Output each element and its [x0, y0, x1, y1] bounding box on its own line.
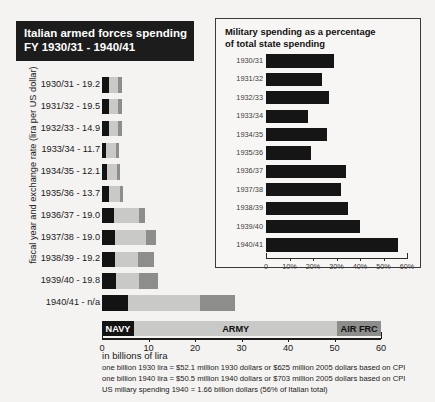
- inset-row-label: 1934/35: [225, 126, 263, 144]
- inset-bar-wrap: [266, 165, 413, 178]
- chart-row: 1939/40 - 19.8: [16, 270, 381, 292]
- inset-bar-wrap: [266, 91, 413, 104]
- inset-row: 1932/33: [225, 89, 415, 107]
- inset-bar-wrap: [266, 238, 413, 251]
- inset-x-tick: [337, 258, 338, 261]
- inset-row-label: 1930/31: [225, 52, 263, 70]
- inset-x-axis: 010%20%30%40%50%60%: [266, 258, 407, 259]
- bar-segment-army: [109, 77, 118, 92]
- x-tick: [381, 332, 382, 339]
- bar-segment-air-frc: [118, 99, 121, 114]
- inset-row: 1939/40: [225, 218, 415, 236]
- inset-x-tick: [266, 253, 267, 259]
- inset-row: 1936/37: [225, 162, 415, 180]
- inset-x-tick: [360, 258, 361, 261]
- chart-row: 1940/41 - n/a: [16, 292, 381, 314]
- x-tick: [335, 338, 336, 342]
- stacked-bar: [102, 273, 381, 288]
- x-tick-label: 50: [329, 343, 339, 353]
- bar-segment-army: [106, 143, 116, 158]
- legend-item-navy: NAVY: [102, 321, 134, 336]
- inset-x-tick-label: 50%: [376, 262, 390, 271]
- x-tick-label: 60: [376, 343, 386, 353]
- x-tick-label: 30: [236, 343, 246, 353]
- inset-bar-wrap: [266, 146, 413, 159]
- row-label: 1935/36 - 13.7: [16, 183, 100, 205]
- bar-segment-navy: [102, 252, 115, 267]
- bar-segment-navy: [102, 186, 109, 201]
- inset-row-label: 1938/39: [225, 199, 263, 217]
- bar-segment-navy: [102, 230, 115, 245]
- inset-bar-wrap: [266, 183, 413, 196]
- inset-bar: [266, 73, 322, 86]
- inset-bar: [266, 165, 346, 178]
- bar-segment-army: [109, 186, 119, 201]
- footnote-2: one billion 1940 lira = $50.5 million 19…: [102, 374, 405, 383]
- row-label: 1933/34 - 11.7: [16, 139, 100, 161]
- bar-segment-air-frc: [200, 295, 235, 310]
- inset-row-label: 1939/40: [225, 218, 263, 236]
- infographic-root: Italian armed forces spending FY 1930/31…: [0, 0, 435, 402]
- bar-segment-air-frc: [146, 230, 156, 245]
- bar-segment-army: [109, 99, 119, 114]
- inset-bar: [266, 110, 308, 123]
- legend-item-army: ARMY: [134, 321, 337, 336]
- bar-segment-army: [115, 252, 138, 267]
- row-label: 1939/40 - 19.8: [16, 270, 100, 292]
- chart-legend: NAVYARMYAIR FRC: [102, 321, 381, 336]
- inset-bar: [266, 202, 348, 215]
- inset-panel: Military spending as a percentage of tot…: [215, 18, 421, 268]
- inset-bar-wrap: [266, 73, 413, 86]
- inset-x-tick-label: 10%: [282, 262, 296, 271]
- inset-row-label: 1931/32: [225, 70, 263, 88]
- inset-x-tick-label: 30%: [329, 262, 343, 271]
- inset-x-tick: [313, 258, 314, 261]
- bar-segment-navy: [102, 121, 109, 136]
- inset-bar: [266, 91, 329, 104]
- inset-x-tick-label: 60%: [400, 262, 414, 271]
- inset-title-line1: Military spending as a percentage: [225, 26, 417, 38]
- inset-x-tick: [384, 258, 385, 261]
- inset-row: 1931/32: [225, 70, 415, 88]
- stacked-bar: [102, 295, 381, 310]
- x-unit-label: in billions of lira: [102, 350, 168, 361]
- x-tick-label: 20: [190, 343, 200, 353]
- bar-segment-army: [116, 273, 139, 288]
- inset-row: 1930/31: [225, 52, 415, 70]
- inset-title-line2: of total state spending: [225, 38, 417, 50]
- row-label: 1936/37 - 19.0: [16, 205, 100, 227]
- row-label: 1932/33 - 14.9: [16, 118, 100, 140]
- x-tick: [288, 338, 289, 342]
- bar-segment-air-frc: [118, 121, 122, 136]
- inset-bar: [266, 183, 341, 196]
- inset-x-tick-label: 20%: [306, 262, 320, 271]
- bar-segment-navy: [102, 295, 128, 310]
- inset-row-label: 1933/34: [225, 107, 263, 125]
- inset-row: 1935/36: [225, 144, 415, 162]
- bar-segment-air-frc: [139, 273, 158, 288]
- bar-segment-navy: [102, 77, 109, 92]
- inset-row: 1933/34: [225, 107, 415, 125]
- bar-segment-navy: [102, 208, 114, 223]
- bar-segment-navy: [102, 273, 116, 288]
- row-label: 1938/39 - 19.2: [16, 248, 100, 270]
- bar-segment-army: [114, 208, 139, 223]
- x-tick: [102, 332, 103, 339]
- inset-bar-wrap: [266, 220, 413, 233]
- bar-segment-army: [128, 295, 200, 310]
- inset-x-tick: [290, 258, 291, 261]
- inset-row: 1940/41: [225, 236, 415, 254]
- bar-segment-army: [115, 230, 147, 245]
- inset-bar-wrap: [266, 54, 413, 67]
- x-tick: [195, 338, 196, 342]
- inset-bar: [266, 54, 334, 67]
- inset-bar: [266, 238, 398, 251]
- inset-bar-wrap: [266, 202, 413, 215]
- inset-bar-chart: 1930/311931/321932/331933/341934/351935/…: [225, 52, 415, 256]
- footnote-3: US miliary spending 1940 = 1.66 billion …: [102, 385, 328, 394]
- footnote-1: one billion 1930 lira = $52.1 million 19…: [102, 363, 405, 372]
- inset-bar: [266, 146, 311, 159]
- row-label: 1930/31 - 19.2: [16, 74, 100, 96]
- inset-row-label: 1937/38: [225, 181, 263, 199]
- main-title-line1: Italian armed forces spending: [24, 27, 186, 41]
